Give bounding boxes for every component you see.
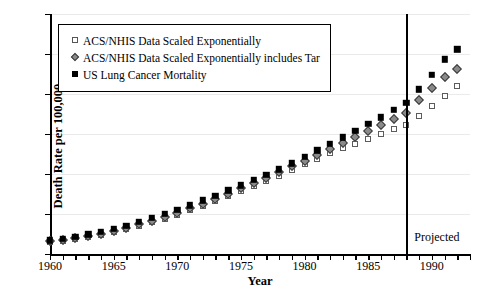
x-axis-tick (457, 254, 458, 260)
data-point (136, 219, 142, 225)
filled-square-marker-icon (67, 68, 83, 77)
x-axis-tick (470, 254, 471, 260)
x-axis-tick (139, 254, 140, 260)
x-axis-tick (266, 254, 267, 260)
data-point (238, 182, 244, 188)
x-axis-tick-label: 1965 (102, 259, 126, 274)
x-axis-tick-label: 1970 (165, 259, 189, 274)
x-axis-tick (279, 254, 280, 260)
x-axis-tick (394, 254, 395, 260)
data-point (416, 86, 422, 92)
data-point (340, 134, 346, 140)
y-axis-tick (45, 14, 50, 15)
legend-item: US Lung Cancer Mortality (67, 68, 320, 82)
data-point (149, 215, 155, 221)
projected-region-label: Projected (414, 230, 459, 245)
data-point (454, 83, 460, 89)
x-axis-tick (381, 254, 382, 260)
data-point (85, 231, 91, 237)
data-point (187, 202, 193, 208)
data-point (442, 93, 448, 99)
data-point (225, 187, 231, 193)
y-axis-tick-labels: 0100200300400500600 (0, 0, 44, 291)
data-point (429, 103, 435, 109)
data-point (365, 136, 371, 142)
chart-legend: ACS/NHIS Data Scaled Exponentially ACS/N… (58, 24, 331, 92)
legend-item-label: ACS/NHIS Data Scaled Exponentially inclu… (83, 51, 320, 65)
y-axis-tick (45, 174, 50, 175)
data-point (276, 166, 282, 172)
data-point (200, 197, 206, 203)
data-point (289, 160, 295, 166)
legend-item: ACS/NHIS Data Scaled Exponentially inclu… (67, 51, 320, 65)
projection-divider-line (406, 14, 408, 256)
x-axis-tick-label: 1975 (229, 259, 253, 274)
data-point (416, 113, 422, 119)
data-point (327, 141, 333, 147)
diamond-marker-icon (67, 51, 83, 60)
x-axis-tick-label: 1980 (293, 259, 317, 274)
data-point (414, 95, 424, 105)
y-axis-title: Death Rate per 100,000 (51, 83, 66, 208)
x-axis-tick (190, 254, 191, 260)
x-axis-title: Year (50, 274, 470, 289)
data-point (110, 226, 116, 232)
lung-cancer-mortality-chart: 0100200300400500600 19601965197019751980… (0, 0, 484, 291)
data-point (263, 172, 269, 178)
x-axis-tick (445, 254, 446, 260)
data-point (161, 211, 167, 217)
x-axis-tick (317, 254, 318, 260)
x-axis-tick-label: 1960 (38, 259, 62, 274)
data-point (440, 72, 450, 82)
x-axis-tick (63, 254, 64, 260)
data-point (47, 237, 53, 243)
data-point (376, 120, 386, 130)
y-axis-tick (45, 214, 50, 215)
data-point (454, 46, 460, 52)
x-axis-tick (126, 254, 127, 260)
data-point (429, 72, 435, 78)
data-point (123, 222, 129, 228)
x-axis-tick (343, 254, 344, 260)
y-axis-tick (45, 134, 50, 135)
data-point (378, 114, 384, 120)
legend-item-label: US Lung Cancer Mortality (83, 68, 207, 82)
open-square-marker-icon (67, 34, 83, 43)
x-axis-tick-label: 1985 (356, 259, 380, 274)
legend-item-label: ACS/NHIS Data Scaled Exponentially (83, 34, 261, 48)
data-point (72, 234, 78, 240)
legend-item: ACS/NHIS Data Scaled Exponentially (67, 34, 320, 48)
y-axis-tick (45, 54, 50, 55)
data-point (352, 128, 358, 134)
x-axis-tick (254, 254, 255, 260)
data-point (365, 121, 371, 127)
data-point (301, 154, 307, 160)
data-point (174, 206, 180, 212)
data-point (250, 177, 256, 183)
data-point (60, 236, 66, 242)
data-point (441, 56, 447, 62)
data-point (314, 147, 320, 153)
x-axis-tick (215, 254, 216, 260)
x-axis-tick (203, 254, 204, 260)
x-axis-tick (75, 254, 76, 260)
data-point (212, 192, 218, 198)
data-point (452, 64, 462, 74)
x-axis-tick-label: 1990 (420, 259, 444, 274)
data-point (427, 83, 437, 93)
data-point (390, 107, 396, 113)
x-axis-tick (88, 254, 89, 260)
data-point (378, 131, 384, 137)
data-point (98, 228, 104, 234)
y-axis-tick (45, 94, 50, 95)
x-axis-tick (152, 254, 153, 260)
x-axis-tick (330, 254, 331, 260)
data-point (391, 126, 397, 132)
data-point (389, 114, 399, 124)
